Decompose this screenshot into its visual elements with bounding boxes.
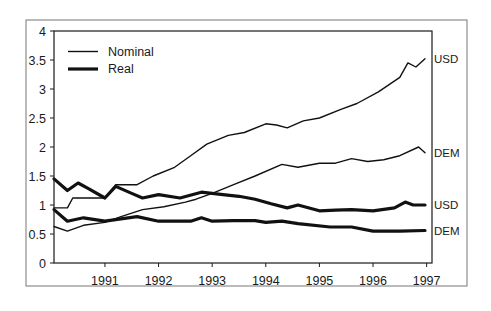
y-tick-label: 1 <box>39 199 46 213</box>
x-axis: 1991199219931994199519961997 <box>91 263 441 288</box>
end-labels: USDDEMUSDDEM <box>434 53 460 237</box>
legend: Nominal Real <box>68 45 154 76</box>
x-tick-label: 1994 <box>252 274 280 288</box>
x-tick-label: 1997 <box>413 274 441 288</box>
legend-label-nominal: Nominal <box>108 45 154 59</box>
y-tick-label: 3.5 <box>29 54 46 68</box>
legend-label-real: Real <box>108 62 134 76</box>
chart: 00.511.522.533.54 1991199219931994199519… <box>0 0 491 311</box>
series-line-real-dem <box>54 210 425 232</box>
x-tick-label: 1993 <box>198 274 226 288</box>
series-group <box>54 59 425 231</box>
x-tick-label: 1992 <box>145 274 173 288</box>
end-label-nominal-dem: DEM <box>434 147 460 159</box>
y-axis: 00.511.522.533.54 <box>29 25 54 271</box>
x-tick-label: 1995 <box>305 274 333 288</box>
x-tick-label: 1991 <box>91 274 119 288</box>
y-tick-label: 2 <box>39 141 46 155</box>
y-tick-label: 1.5 <box>29 170 46 184</box>
end-label-real-usd: USD <box>434 199 458 211</box>
end-label-real-dem: DEM <box>434 225 460 237</box>
end-label-nominal-usd: USD <box>434 53 458 65</box>
x-tick-label: 1996 <box>359 274 387 288</box>
series-line-real-usd <box>54 179 425 211</box>
y-tick-label: 3 <box>39 83 46 97</box>
y-tick-label: 4 <box>39 25 46 39</box>
series-line-nominal-usd <box>54 59 425 208</box>
series-line-nominal-dem <box>54 147 425 231</box>
outer-frame <box>26 20 467 286</box>
y-tick-label: 2.5 <box>29 112 46 126</box>
y-tick-label: 0.5 <box>29 228 46 242</box>
y-tick-label: 0 <box>39 257 46 271</box>
